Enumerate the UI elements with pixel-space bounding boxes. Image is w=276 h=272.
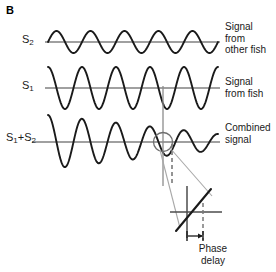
callout-leader-line-right xyxy=(170,148,212,196)
trace-label-s2-subscript: 2 xyxy=(29,38,33,47)
description-signal-from-other-fish: Signal from other fish xyxy=(225,21,266,56)
trace-label-combined-base2: +S xyxy=(18,131,32,143)
description-signal-from-fish: Signal from fish xyxy=(225,76,263,99)
trace-label-s1-subscript: 1 xyxy=(29,84,33,93)
inset-waveform-slope xyxy=(176,189,211,231)
trace-label-combined-subscript1: 1 xyxy=(13,136,17,145)
trace-label-combined: S1+S2 xyxy=(6,131,36,143)
trace-label-s1: S1 xyxy=(22,79,34,91)
description-combined-signal: Combined signal xyxy=(225,122,271,145)
trace-label-s2: S2 xyxy=(22,33,34,45)
callout-leader-line-left xyxy=(160,150,180,228)
inset-caption-phase-delay: Phase delay xyxy=(183,243,243,266)
combined-waveform xyxy=(48,115,218,167)
trace-label-combined-subscript2: 2 xyxy=(32,136,36,145)
phase-delay-figure: B S2 S1 S1+S2 xyxy=(0,0,276,272)
